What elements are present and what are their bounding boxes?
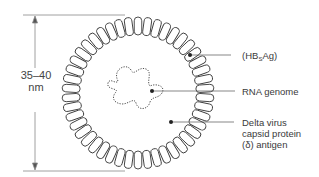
arrow-down-icon	[33, 163, 38, 170]
dimension-lines	[23, 15, 125, 171]
capsomere	[134, 151, 142, 169]
label-delta-line-1: Delta virus	[242, 117, 301, 128]
pointer-dot-icon	[169, 120, 173, 124]
capsomere	[62, 93, 80, 102]
rna-genome-shape	[108, 67, 163, 109]
label-surface-antigen: (HBSAg)	[242, 50, 277, 65]
capsomere	[62, 84, 80, 93]
diameter-unit: nm	[20, 81, 52, 93]
capsomere	[196, 93, 214, 102]
label-delta-line-3: (δ) antigen	[242, 139, 301, 150]
label-delta-antigen: Delta virus capsid protein (δ) antigen	[242, 117, 301, 150]
label-surface-antigen-suffix: Ag)	[262, 50, 277, 61]
diameter-label: 35–40 nm	[20, 69, 52, 93]
pointer-dot-icon	[188, 53, 192, 57]
label-surface-antigen-prefix: (HB	[242, 50, 258, 61]
pointer-dot-icon	[150, 89, 154, 93]
arrow-up-icon	[33, 16, 38, 23]
capsomere	[196, 84, 214, 93]
capsid-ring	[62, 17, 214, 169]
label-delta-line-2: capsid protein	[242, 128, 301, 139]
label-rna-genome: RNA genome	[242, 86, 299, 97]
diameter-value: 35–40	[20, 69, 52, 81]
capsomere	[134, 17, 142, 35]
